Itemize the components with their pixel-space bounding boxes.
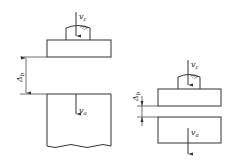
- workpiece-velocity-label: va: [79, 106, 87, 116]
- machining-gap-diagram: vc va Δb vc va Δb: [0, 0, 237, 162]
- tool-shaft: [66, 26, 90, 41]
- gap-label: Δb: [131, 91, 141, 102]
- gap-label: Δb: [15, 72, 25, 83]
- tool-block: [158, 89, 221, 106]
- right-figure: [137, 60, 221, 154]
- right-labels: vc va Δb: [131, 60, 199, 138]
- workpiece: [158, 117, 221, 143]
- tool-velocity-label: vc: [79, 12, 87, 22]
- tool-velocity-label: vc: [191, 60, 199, 70]
- workpiece: [47, 94, 111, 148]
- workpiece-velocity-label: va: [191, 128, 199, 138]
- tool-block: [47, 40, 111, 57]
- left-figure: [20, 12, 111, 148]
